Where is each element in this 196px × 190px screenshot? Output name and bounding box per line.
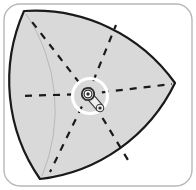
pivot-hub-core	[86, 92, 89, 95]
reuleaux-rotor-figure	[0, 0, 196, 190]
pivot-arm-end-pin	[98, 106, 101, 109]
figure-container: Reuleaux triangle rotor with dashed radi…	[0, 0, 196, 190]
